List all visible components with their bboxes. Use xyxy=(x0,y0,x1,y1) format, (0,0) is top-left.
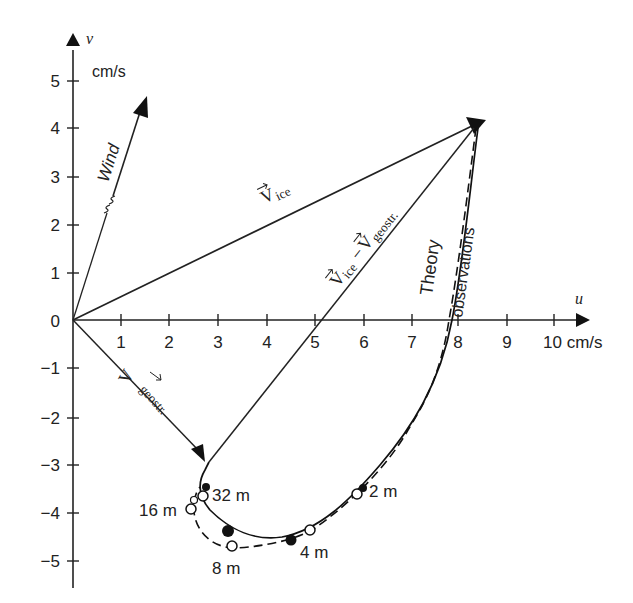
y-tick-5: 5 xyxy=(51,72,60,91)
x-tick-6: 6 xyxy=(359,333,368,352)
x-tick-9: 9 xyxy=(502,333,511,352)
marker-theory-4m xyxy=(286,535,297,546)
hodograph-diagram: v cm/s 5 4 3 2 1 0 −1 −2 −3 −4 −5 xyxy=(0,0,633,603)
wind-arrowhead-icon xyxy=(133,96,148,118)
y-tick-4: 4 xyxy=(51,119,60,138)
marker-obs-2m xyxy=(352,489,362,499)
marker-obs-4m xyxy=(305,525,315,535)
marker-theory-8m xyxy=(222,525,234,537)
v-geostr-vector: geostr. V xyxy=(73,320,205,462)
marker-obs-32m xyxy=(198,491,208,501)
marker-theory-16m xyxy=(191,497,198,504)
theory-curve xyxy=(200,128,478,538)
v-ice-label: V xyxy=(257,184,277,208)
observations-label: observations xyxy=(448,226,477,318)
marker-theory-32m xyxy=(202,483,210,491)
depth-label-16m: 16 m xyxy=(139,501,177,520)
v-geostr-arrowhead-icon xyxy=(191,444,205,462)
origin-label: 0 xyxy=(51,312,60,331)
y-axis-label: v xyxy=(86,30,94,47)
marker-obs-8m xyxy=(227,541,237,551)
y-tick-neg1: −1 xyxy=(41,359,60,378)
x-tick-1: 1 xyxy=(116,333,125,352)
depth-label-8m: 8 m xyxy=(212,559,240,578)
x-axis-label: u xyxy=(575,290,583,307)
observations-curve xyxy=(194,128,476,548)
depth-label-32m: 32 m xyxy=(212,486,250,505)
x-axis-arrow-icon xyxy=(576,313,590,327)
y-axis-unit: cm/s xyxy=(92,63,126,80)
vector-arrow-icon xyxy=(150,372,161,380)
y-tick-2: 2 xyxy=(51,216,60,235)
x-tick-8: 8 xyxy=(453,333,462,352)
y-tick-1: 1 xyxy=(51,264,60,283)
y-tick-neg2: −2 xyxy=(41,409,60,428)
wind-vector: Wind xyxy=(73,96,148,320)
y-tick-neg5: −5 xyxy=(41,552,60,571)
y-axis: v cm/s 5 4 3 2 1 0 −1 −2 −3 −4 −5 xyxy=(41,30,126,588)
x-tick-3: 3 xyxy=(213,333,222,352)
depth-label-2m: 2 m xyxy=(369,482,397,501)
x-axis-unit-label: 10 cm/s xyxy=(543,333,603,352)
x-tick-4: 4 xyxy=(262,333,271,352)
y-tick-3: 3 xyxy=(51,168,60,187)
break-mark-icon xyxy=(104,205,110,213)
y-tick-neg4: −4 xyxy=(41,504,60,523)
v-geostr-subscript: geostr. xyxy=(137,382,171,418)
y-tick-neg3: −3 xyxy=(41,456,60,475)
y-axis-arrow-icon xyxy=(66,33,80,46)
x-tick-7: 7 xyxy=(407,333,416,352)
theory-label: Theory xyxy=(416,238,444,296)
x-tick-5: 5 xyxy=(310,333,319,352)
x-tick-2: 2 xyxy=(164,333,173,352)
depth-label-4m: 4 m xyxy=(300,543,328,562)
marker-obs-16m xyxy=(186,504,196,514)
